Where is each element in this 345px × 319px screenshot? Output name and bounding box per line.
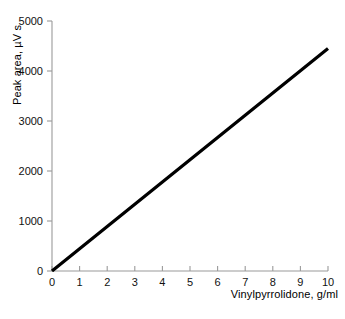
y-tick-label: 3000 [19,115,43,127]
x-tick-label: 1 [77,276,83,288]
x-axis: 012345678910 [49,266,334,288]
x-tick-label: 5 [187,276,193,288]
y-axis: 010002000300040005000 [19,15,52,277]
y-tick-label: 1000 [19,215,43,227]
x-tick-label: 4 [159,276,165,288]
calibration-chart: Peak area, µV s Vinylpyrrolidone, g/ml 0… [0,0,345,319]
x-tick-label: 8 [270,276,276,288]
x-tick-label: 9 [297,276,303,288]
y-tick-label: 0 [37,265,43,277]
x-tick-label: 7 [242,276,248,288]
x-tick-label: 10 [322,276,334,288]
x-tick-label: 2 [104,276,110,288]
x-tick-label: 6 [215,276,221,288]
x-tick-label: 3 [132,276,138,288]
x-tick-label: 0 [49,276,55,288]
y-tick-label: 5000 [19,15,43,27]
series-line [52,49,328,272]
data-series [52,49,328,272]
y-tick-label: 2000 [19,165,43,177]
plot-area: 010002000300040005000 012345678910 [0,0,345,319]
y-tick-label: 4000 [19,65,43,77]
